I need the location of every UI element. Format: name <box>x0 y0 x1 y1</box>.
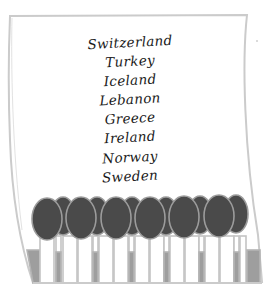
tear-off-tabs <box>27 236 262 283</box>
speck <box>256 40 258 42</box>
tear-off-flyer: Switzerland Turkey Iceland Lebanon Greec… <box>0 0 278 296</box>
tab-ovals <box>32 195 248 240</box>
